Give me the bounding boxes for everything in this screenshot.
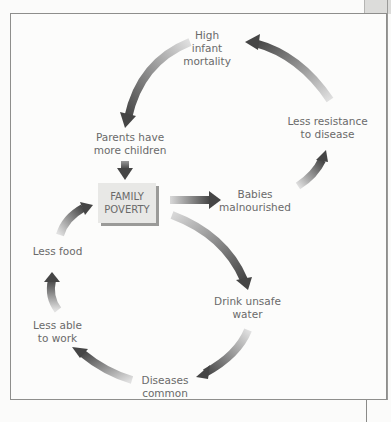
node-less-food: Less food	[25, 245, 90, 258]
node-less-resistance: Less resistance to disease	[280, 115, 375, 141]
node-less-able-to-work: Less able to work	[20, 319, 95, 345]
arrow-poverty-to-water	[172, 215, 252, 290]
node-babies-malnourished: Babies malnourished	[215, 188, 295, 214]
node-drink-unsafe-water: Drink unsafe water	[205, 295, 290, 321]
node-family-poverty: FAMILY POVERTY	[98, 183, 156, 223]
arrow-children-to-poverty	[117, 161, 133, 180]
arrow-work-to-food	[44, 272, 60, 310]
node-parents-more-children: Parents have more children	[85, 131, 175, 157]
node-high-infant-mortality: High infant mortality	[172, 29, 242, 68]
arrow-resistance-to-mortality	[245, 34, 330, 100]
arrow-diseases-to-work	[72, 347, 132, 380]
arrow-food-to-poverty	[60, 202, 93, 235]
arrow-water-to-diseases	[196, 330, 248, 379]
arrow-poverty-to-malnourished	[170, 191, 221, 209]
node-diseases-common: Diseases common	[130, 374, 200, 400]
arrow-malnourished-to-resistance	[298, 150, 328, 186]
